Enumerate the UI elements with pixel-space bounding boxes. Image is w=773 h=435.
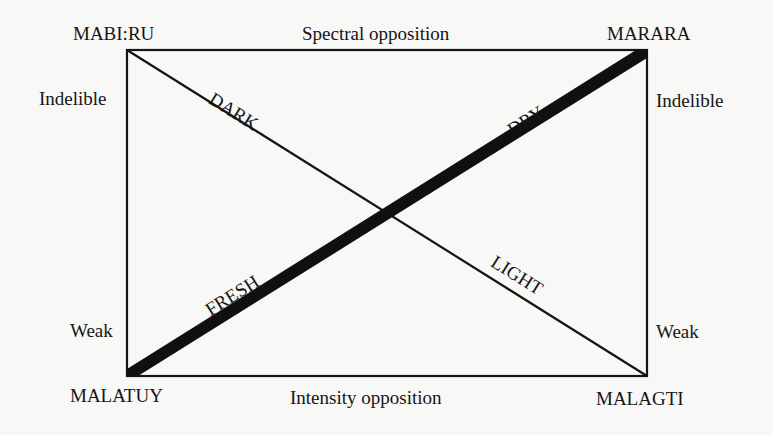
corner-label-malagti: MALAGTI	[596, 389, 684, 408]
diagram-graphics	[0, 0, 773, 435]
side-label-left-weak: Weak	[70, 321, 113, 340]
side-label-right-weak: Weak	[656, 322, 699, 341]
corner-label-marara: MARARA	[607, 24, 690, 43]
diagram-canvas: MABI:RU MARARA MALATUY MALAGTI Spectral …	[0, 0, 773, 435]
edge-label-intensity-opposition: Intensity opposition	[290, 388, 441, 407]
corner-label-malatuy: MALATUY	[70, 386, 163, 405]
edge-label-spectral-opposition: Spectral opposition	[302, 24, 449, 43]
side-label-right-indelible: Indelible	[656, 91, 724, 110]
corner-label-mabiru: MABI:RU	[73, 24, 154, 43]
side-label-left-indelible: Indelible	[39, 89, 107, 108]
